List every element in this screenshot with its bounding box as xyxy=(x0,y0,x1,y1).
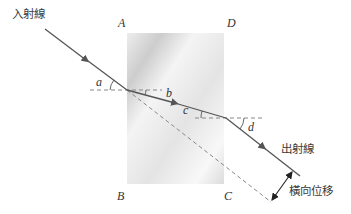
angle-label-c: c xyxy=(183,104,188,116)
angle-label-b: b xyxy=(166,87,172,99)
angle-label-d: d xyxy=(248,121,254,133)
incident-ray-label: 入射線 xyxy=(12,9,45,21)
emergent-ray-label: 出射線 xyxy=(281,144,314,156)
diagram-canvas xyxy=(0,0,351,214)
angle-arc-d xyxy=(240,118,244,129)
angle-label-a: a xyxy=(96,76,102,88)
refraction-diagram: 入射線 出射線 橫向位移 A D B C a b c d xyxy=(0,0,351,214)
glass-block xyxy=(127,33,224,184)
lateral-shift-label: 橫向位移 xyxy=(289,186,333,198)
incident-ray-segment xyxy=(84,58,127,90)
angle-arc-a xyxy=(110,80,114,90)
vertex-label-c: C xyxy=(224,190,232,202)
vertex-label-a: A xyxy=(118,17,125,29)
vertex-label-b: B xyxy=(117,190,124,202)
vertex-label-d: D xyxy=(227,17,236,29)
incident-ray xyxy=(45,29,86,60)
emergent-ray xyxy=(226,118,263,147)
